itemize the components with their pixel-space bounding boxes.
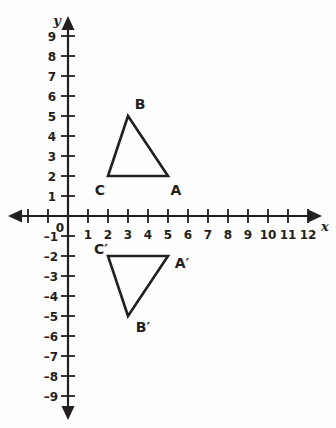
y-tick-label-6: 6: [48, 90, 56, 104]
y-tick-label-neg-9: –9: [44, 390, 58, 404]
triangle-a-prime-b-prime-c-prime-outline: [108, 256, 168, 316]
y-tick-label-2: 2: [48, 170, 56, 184]
y-tick-label-1: 1: [48, 190, 56, 204]
triangle-abc-outline: [108, 116, 168, 176]
y-tick-label-neg-5: –5: [44, 310, 58, 324]
coordinate-plane-svg: 1 2 3 4 5 6 7 8 9 10 11 12 x: [0, 0, 336, 428]
x-tick-label-6: 6: [184, 228, 192, 242]
x-axis-label: x: [320, 219, 329, 234]
y-tick-label-9: 9: [48, 30, 56, 44]
y-tick-label-neg-7: –7: [44, 350, 58, 364]
y-tick-label-8: 8: [48, 50, 56, 64]
vertex-label-a-prime: A′: [175, 255, 190, 271]
vertex-label-a: A: [171, 182, 182, 198]
y-tick-label-neg-4: –4: [44, 290, 58, 304]
origin-label: 0: [56, 221, 64, 235]
y-tick-label-neg-6: –6: [44, 330, 58, 344]
x-tick-label-3: 3: [124, 228, 132, 242]
y-axis-down-arrow-icon: [62, 406, 75, 420]
y-tick-label-3: 3: [48, 150, 56, 164]
vertex-label-b: B: [135, 96, 146, 112]
y-axis-up-arrow-icon: [62, 16, 75, 30]
x-tick-label-4: 4: [144, 228, 152, 242]
x-tick-label-2: 2: [104, 228, 112, 242]
vertex-label-c: C: [95, 182, 105, 198]
vertex-label-b-prime: B′: [136, 319, 151, 335]
x-axis-left-arrow-icon: [8, 210, 22, 223]
vertex-label-c-prime: C′: [94, 241, 108, 257]
y-tick-label-neg-8: –8: [44, 370, 58, 384]
x-tick-label-9: 9: [244, 228, 252, 242]
y-tick-label-5: 5: [48, 110, 56, 124]
coordinate-plane-figure: 1 2 3 4 5 6 7 8 9 10 11 12 x: [0, 0, 336, 428]
x-tick-label-10: 10: [260, 228, 277, 242]
y-tick-label-7: 7: [48, 70, 56, 84]
y-tick-label-neg-3: –3: [44, 270, 58, 284]
triangle-a-prime-b-prime-c-prime: A′ B′ C′: [94, 241, 190, 335]
x-tick-label-8: 8: [224, 228, 232, 242]
x-tick-label-12: 12: [300, 228, 317, 242]
triangle-abc: A B C: [95, 96, 182, 198]
y-tick-label-4: 4: [48, 130, 56, 144]
x-tick-label-1: 1: [84, 228, 92, 242]
x-tick-label-11: 11: [280, 228, 297, 242]
y-axis-label: y: [52, 13, 62, 28]
y-tick-label-neg-2: –2: [44, 250, 58, 264]
x-tick-label-7: 7: [204, 228, 212, 242]
x-tick-label-5: 5: [164, 228, 172, 242]
x-axis-right-arrow-icon: [308, 210, 322, 223]
